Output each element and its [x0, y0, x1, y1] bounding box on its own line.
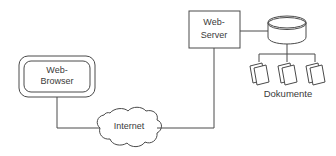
server-label-line1: Web-: [203, 17, 224, 27]
server-label-line2: Server: [201, 30, 228, 40]
browser-label-line2: Browser: [40, 76, 73, 86]
connector-group: [57, 31, 315, 128]
document-3[interactable]: [306, 63, 325, 85]
node-web-server[interactable]: Web- Server: [189, 11, 240, 48]
connector-browser-to-internet: [57, 97, 96, 128]
document-1-front-sheet: [254, 65, 269, 85]
diagram-canvas: Web- Browser Internet Web- Server: [0, 0, 336, 156]
document-2[interactable]: [278, 63, 297, 85]
browser-label-line1: Web-: [46, 65, 67, 75]
node-web-browser[interactable]: Web- Browser: [19, 56, 95, 97]
node-documents[interactable]: Dokumente: [250, 63, 325, 99]
documents-caption: Dokumente: [264, 88, 313, 99]
node-internet-cloud[interactable]: Internet: [96, 107, 162, 146]
document-1[interactable]: [250, 63, 269, 85]
node-database-cylinder[interactable]: [268, 16, 306, 44]
document-3-front-sheet: [310, 65, 325, 85]
internet-label: Internet: [114, 121, 145, 131]
network-architecture-diagram: Web- Browser Internet Web- Server: [0, 0, 336, 156]
connector-internet-to-server: [155, 48, 214, 128]
document-2-front-sheet: [282, 65, 297, 85]
